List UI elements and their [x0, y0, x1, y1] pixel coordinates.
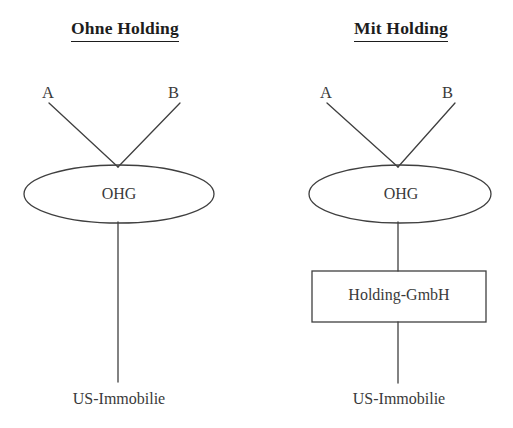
ohg-label-left: OHG	[24, 185, 214, 203]
asset-label-left: US-Immobilie	[28, 390, 210, 408]
connector-b-to-ohg-left	[118, 103, 180, 167]
partner-label-a-left: A	[42, 83, 54, 103]
connector-a-to-ohg-right	[327, 103, 398, 167]
diagram-canvas	[0, 0, 513, 428]
connector-b-to-ohg-right	[398, 103, 455, 167]
partner-label-b-right: B	[442, 83, 453, 103]
connector-a-to-ohg-left	[49, 103, 118, 167]
right-panel-graphics	[309, 103, 491, 383]
partner-label-a-right: A	[320, 83, 332, 103]
partner-label-b-left: B	[168, 83, 179, 103]
ohg-label-right: OHG	[308, 185, 494, 203]
diagram-root: Ohne Holding A B OHG US-Immobilie Mit Ho…	[0, 0, 513, 428]
asset-label-right: US-Immobilie	[308, 390, 490, 408]
left-panel-graphics	[24, 103, 214, 382]
panel-title-mit-holding-text: Mit Holding	[354, 18, 448, 42]
panel-title-ohne-holding-text: Ohne Holding	[71, 18, 179, 42]
panel-title-mit-holding: Mit Holding	[310, 18, 492, 42]
panel-title-ohne-holding: Ohne Holding	[34, 18, 216, 42]
holding-gmbh-label: Holding-GmbH	[312, 286, 486, 304]
